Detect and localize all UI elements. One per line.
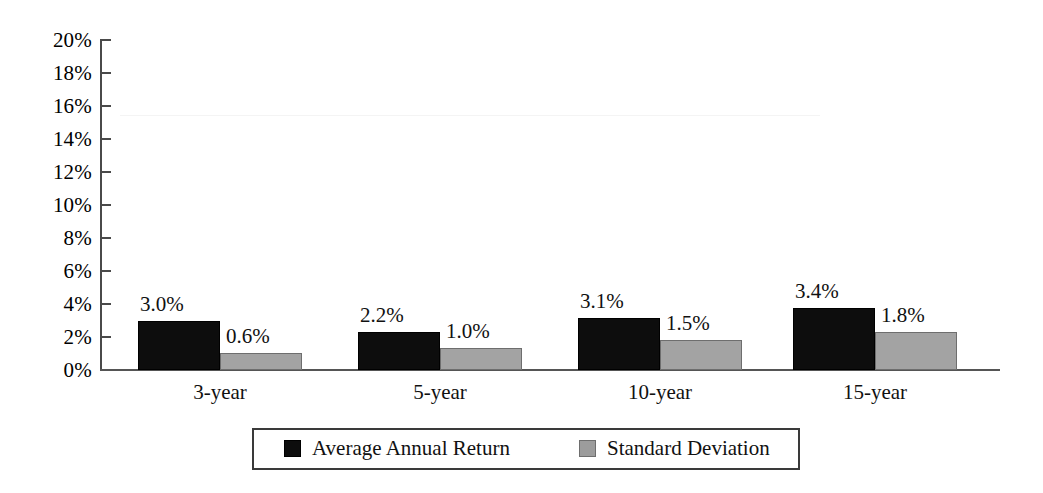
- y-tick-label-8: 8%: [26, 228, 92, 249]
- legend-label-average-annual-return: Average Annual Return: [312, 437, 510, 459]
- y-tick-label-6: 6%: [26, 261, 92, 282]
- bar-average-annual-return-10-year[interactable]: [578, 318, 660, 370]
- legend-item-standard-deviation[interactable]: Standard Deviation: [579, 437, 770, 459]
- bar-standard-deviation-15-year[interactable]: [875, 332, 957, 370]
- x-axis-label-10-year: 10-year: [578, 381, 742, 403]
- bar-label-standard-deviation-3-year: 0.6%: [226, 326, 270, 347]
- bar-group-15-year: 3.4% 1.8%: [793, 40, 957, 370]
- y-tick-label-16: 16%: [26, 96, 92, 117]
- legend-swatch-icon-average-annual-return: [284, 440, 301, 457]
- bar-label-average-annual-return-10-year: 3.1%: [580, 291, 624, 312]
- bar-average-annual-return-5-year[interactable]: [358, 332, 440, 370]
- bar-label-standard-deviation-10-year: 1.5%: [666, 313, 710, 334]
- bar-average-annual-return-3-year[interactable]: [138, 321, 220, 370]
- y-tick-label-20: 20%: [26, 30, 92, 51]
- bar-label-average-annual-return-3-year: 3.0%: [140, 294, 184, 315]
- bar-standard-deviation-10-year[interactable]: [660, 340, 742, 370]
- plot-area: 3.0% 0.6% 2.2% 1.0% 3.1% 1.5% 3.4% 1.8%: [100, 40, 1000, 370]
- legend-item-average-annual-return[interactable]: Average Annual Return: [284, 437, 510, 459]
- bar-average-annual-return-15-year[interactable]: [793, 308, 875, 370]
- y-tick-label-18: 18%: [26, 63, 92, 84]
- y-tick-label-10: 10%: [26, 195, 92, 216]
- bar-label-standard-deviation-15-year: 1.8%: [881, 305, 925, 326]
- y-axis-labels: 20% 18% 16% 14% 12% 10% 8% 6% 4% 2% 0%: [0, 0, 92, 493]
- bar-label-average-annual-return-5-year: 2.2%: [360, 305, 404, 326]
- bar-label-average-annual-return-15-year: 3.4%: [795, 281, 839, 302]
- legend-label-standard-deviation: Standard Deviation: [607, 437, 770, 459]
- bar-label-standard-deviation-5-year: 1.0%: [446, 321, 490, 342]
- y-tick-label-2: 2%: [26, 327, 92, 348]
- y-tick-label-12: 12%: [26, 162, 92, 183]
- bar-chart: 20% 18% 16% 14% 12% 10% 8% 6% 4% 2% 0% 3…: [0, 0, 1043, 493]
- bar-group-3-year: 3.0% 0.6%: [138, 40, 302, 370]
- bar-group-5-year: 2.2% 1.0%: [358, 40, 522, 370]
- bar-standard-deviation-3-year[interactable]: [220, 353, 302, 370]
- y-tick-label-14: 14%: [26, 129, 92, 150]
- y-tick-label-0: 0%: [26, 360, 92, 381]
- x-axis-label-3-year: 3-year: [138, 381, 302, 403]
- legend: Average Annual Return Standard Deviation: [252, 428, 800, 470]
- bar-standard-deviation-5-year[interactable]: [440, 348, 522, 370]
- y-tick-label-4: 4%: [26, 294, 92, 315]
- bar-group-10-year: 3.1% 1.5%: [578, 40, 742, 370]
- legend-swatch-icon-standard-deviation: [579, 440, 596, 457]
- x-axis-label-15-year: 15-year: [793, 381, 957, 403]
- x-axis-label-5-year: 5-year: [358, 381, 522, 403]
